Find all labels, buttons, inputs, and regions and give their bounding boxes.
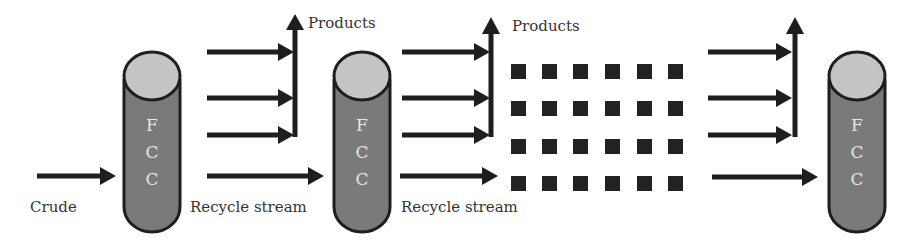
product-arrows-2 — [402, 17, 500, 144]
recycle-stream-label-1: Recycle stream — [190, 200, 307, 215]
fcc-1-letter-f: F — [142, 117, 162, 134]
fcc-1-letter-c2: C — [142, 171, 162, 188]
fcc-2-letter-c2: C — [352, 171, 372, 188]
product-arrows-3 — [708, 17, 804, 144]
fcc-3-letter-c1: C — [847, 144, 867, 161]
recycle-stream-label-2: Recycle stream — [401, 200, 518, 215]
fcc-recycle-diagram: F C C F C C F C C Crude Recycle stream R… — [0, 0, 910, 249]
fcc-1-letter-c1: C — [142, 144, 162, 161]
fcc-3-letter-c2: C — [847, 171, 867, 188]
fcc-2-letter-f: F — [352, 117, 372, 134]
products-label-1: Products — [308, 16, 376, 31]
crude-label: Crude — [30, 200, 77, 215]
product-arrows-1 — [207, 14, 304, 144]
crude-feed-arrow — [37, 167, 116, 185]
products-label-2: Products — [512, 19, 580, 34]
feed-arrow-3 — [712, 168, 818, 186]
recycle-arrow-2 — [400, 167, 498, 185]
recycle-arrow-1 — [207, 167, 324, 185]
continuation-square-grid — [511, 64, 683, 191]
fcc-3-letter-f: F — [847, 117, 867, 134]
fcc-2-letter-c1: C — [352, 144, 372, 161]
